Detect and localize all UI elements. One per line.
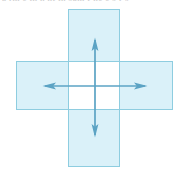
- figure-container: a rm e th n nt th sum f he e s r s: [0, 0, 188, 177]
- cross-figure-svg: [0, 0, 188, 177]
